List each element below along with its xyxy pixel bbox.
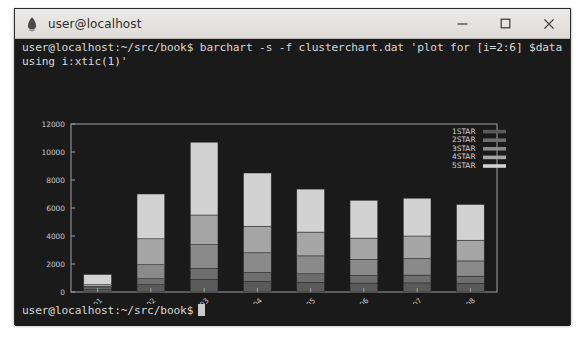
bar-segment bbox=[457, 205, 485, 241]
bar-segment bbox=[297, 256, 325, 274]
window-title: user@localhost bbox=[48, 17, 141, 31]
bar-segment bbox=[457, 240, 485, 261]
y-axis-tick-label: 8000 bbox=[46, 176, 65, 185]
y-axis-tick-label: 10000 bbox=[41, 148, 65, 157]
bar-segment bbox=[403, 198, 431, 236]
close-icon[interactable] bbox=[527, 9, 570, 38]
bar-segment bbox=[190, 215, 218, 245]
bar-segment bbox=[403, 259, 431, 276]
gnome-foot-icon bbox=[23, 15, 41, 33]
y-axis-tick-label: 4000 bbox=[46, 232, 65, 241]
legend-swatch bbox=[483, 130, 506, 134]
bar-segment bbox=[403, 236, 431, 259]
bar-segment bbox=[137, 265, 165, 279]
legend-swatch bbox=[483, 147, 506, 151]
bar-segment bbox=[84, 275, 112, 285]
prompt-text: user@localhost:~/src/book$ bbox=[22, 304, 193, 318]
bar-segment bbox=[403, 275, 431, 283]
stacked-bar-chart: 0200040006000800010000120002015-012015-0… bbox=[15, 69, 570, 304]
bar-segment bbox=[457, 261, 485, 276]
legend-swatch bbox=[483, 156, 506, 160]
bar-segment bbox=[190, 142, 218, 215]
legend-swatch bbox=[483, 138, 506, 142]
block-cursor-icon bbox=[198, 304, 205, 316]
minimize-icon[interactable] bbox=[441, 9, 484, 38]
legend-swatch bbox=[483, 164, 506, 168]
bar-segment bbox=[244, 253, 272, 273]
x-axis-tick-label: 2015-08 bbox=[449, 296, 477, 304]
terminal-body[interactable]: user@localhost:~/src/book$ barchart -s -… bbox=[15, 39, 570, 326]
bar-segment bbox=[457, 276, 485, 283]
shell-prompt: user@localhost:~/src/book$ bbox=[22, 304, 205, 318]
y-axis-tick-label: 12000 bbox=[41, 120, 65, 129]
bar-segment bbox=[297, 189, 325, 232]
bar-segment bbox=[244, 173, 272, 226]
maximize-icon[interactable] bbox=[484, 9, 527, 38]
y-axis-tick-label: 2000 bbox=[46, 260, 65, 269]
bar-segment bbox=[137, 239, 165, 265]
window-controls bbox=[441, 9, 570, 38]
y-axis-tick-label: 6000 bbox=[46, 204, 65, 213]
x-axis-tick-label: 2015-07 bbox=[396, 296, 424, 304]
bar-segment bbox=[297, 274, 325, 282]
bar-segment bbox=[244, 226, 272, 253]
x-axis-tick-label: 2015-04 bbox=[236, 296, 264, 304]
bar-segment bbox=[350, 275, 378, 283]
bar-segment bbox=[244, 272, 272, 281]
legend-label: 5STAR bbox=[452, 161, 476, 170]
bar-segment bbox=[350, 259, 378, 275]
bar-segment bbox=[350, 238, 378, 259]
x-axis-tick-label: 2015-05 bbox=[289, 296, 317, 304]
x-axis-tick-label: 2015-06 bbox=[343, 296, 371, 304]
bar-segment bbox=[190, 245, 218, 269]
chart-region: 0200040006000800010000120002015-012015-0… bbox=[15, 69, 570, 304]
command-line: user@localhost:~/src/book$ barchart -s -… bbox=[22, 41, 566, 68]
y-axis-tick-label: 0 bbox=[60, 288, 65, 297]
bar-segment bbox=[350, 200, 378, 238]
plot-border bbox=[71, 124, 497, 292]
window-titlebar[interactable]: user@localhost bbox=[15, 9, 570, 39]
bar-segment bbox=[190, 268, 218, 279]
bar-segment bbox=[297, 232, 325, 256]
bar-segment bbox=[137, 279, 165, 285]
bar-segment bbox=[137, 194, 165, 239]
terminal-window: user@localhost user@localhost:~/src/book… bbox=[14, 8, 571, 325]
